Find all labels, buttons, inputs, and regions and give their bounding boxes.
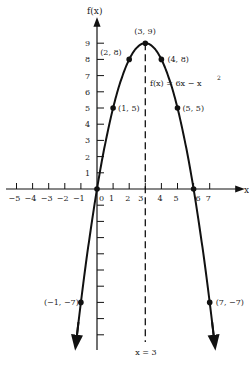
function-label-exponent: 2	[217, 74, 221, 81]
function-label: f(x) = 6x − x	[150, 79, 202, 88]
data-point	[207, 300, 213, 306]
x-tick-label: −2	[57, 194, 69, 203]
point-label: (4, 8)	[167, 55, 189, 64]
parabola-chart: xf(x)−5−4−3−2−101234567123456789 x = 3 (…	[0, 0, 249, 365]
point-label: (5, 5)	[183, 104, 205, 113]
left-arrow	[76, 322, 78, 343]
x-tick-label: 1	[109, 194, 114, 203]
x-axis-label: x	[244, 185, 249, 195]
y-tick-label: 3	[85, 136, 90, 145]
point-label: (3, 9)	[134, 27, 156, 36]
y-tick-label: 2	[85, 153, 90, 162]
y-tick-label: 6	[85, 88, 90, 97]
x-tick-label: −5	[9, 194, 21, 203]
point-label: (2, 8)	[100, 48, 122, 57]
data-point	[159, 57, 165, 63]
y-tick-label: 7	[85, 72, 90, 81]
y-tick-label: 4	[85, 120, 90, 129]
point-label: (7, −7)	[216, 298, 244, 307]
x-tick-label: 4	[157, 194, 162, 203]
x-tick-label: −4	[25, 194, 37, 203]
x-tick-label: 3	[138, 194, 143, 203]
data-point	[175, 105, 181, 111]
point-label: (1, 5)	[118, 104, 140, 113]
data-point	[126, 57, 132, 63]
x-tick-label: 7	[206, 194, 211, 203]
right-arrow	[212, 322, 214, 343]
y-tick-label: 1	[85, 169, 90, 178]
point-label: (−1, −7)	[44, 298, 79, 307]
y-axis-label: f(x)	[87, 6, 102, 16]
x-tick-label: −1	[73, 194, 85, 203]
x-tick-label: 0	[99, 194, 104, 203]
x-tick-label: −3	[41, 194, 53, 203]
data-point	[143, 40, 149, 46]
y-tick-label: 9	[85, 39, 90, 48]
y-tick-label: 5	[85, 104, 90, 113]
x-tick-label: 5	[174, 194, 179, 203]
symmetry-label: x = 3	[135, 348, 156, 357]
labels: (−1, −7)(1, 5)(2, 8)(3, 9)(4, 8)(5, 5)(7…	[44, 27, 244, 307]
data-point	[78, 300, 84, 306]
data-point	[110, 105, 116, 111]
y-tick-label: 8	[85, 55, 90, 64]
x-tick-label: 2	[125, 194, 130, 203]
data-point	[94, 186, 100, 192]
data-point	[191, 186, 197, 192]
